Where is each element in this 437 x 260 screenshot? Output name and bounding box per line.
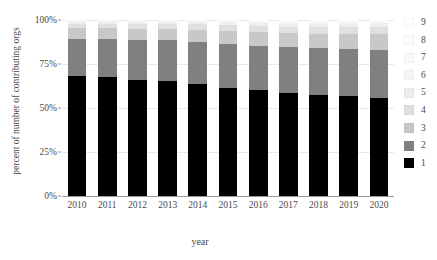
bar-2019[interactable] (339, 20, 358, 196)
x-tick-label: 2016 (249, 200, 268, 210)
stacked-bar-chart: percent of number of contributing orgs 0… (0, 0, 437, 260)
bar-segment-1 (188, 84, 207, 196)
legend-swatch-icon (404, 123, 414, 133)
bar-segment-4 (370, 27, 389, 34)
legend-label: 1 (421, 155, 426, 172)
bar-segment-3 (128, 29, 147, 40)
legend-label: 5 (421, 84, 426, 101)
legend-swatch-icon (404, 35, 414, 45)
bar-2015[interactable] (219, 20, 238, 196)
legend-item-7[interactable]: 7 (404, 49, 437, 67)
x-tick-label: 2012 (128, 200, 147, 210)
y-axis-label: percent of number of contributing orgs (11, 11, 21, 191)
bar-segment-2 (370, 50, 389, 98)
x-tick-label: 2018 (309, 200, 328, 210)
bar-segment-2 (188, 42, 207, 84)
x-tick-label: 2010 (68, 200, 87, 210)
plot-area: 0%25%50%75%100%2010201120122013201420152… (62, 20, 394, 196)
legend-label: 6 (421, 67, 426, 84)
legend-item-6[interactable]: 6 (404, 67, 437, 85)
y-tick-label: 100% (35, 15, 57, 25)
bar-segment-1 (309, 95, 328, 196)
legend-label: 2 (421, 137, 426, 154)
x-tick-label: 2020 (369, 200, 388, 210)
bar-segment-3 (370, 34, 389, 50)
bar-segment-3 (309, 34, 328, 48)
y-tick-mark (58, 108, 61, 109)
legend-item-8[interactable]: 8 (404, 32, 437, 50)
y-tick-label: 0% (44, 191, 57, 201)
legend-label: 7 (421, 49, 426, 66)
y-tick-mark (58, 196, 61, 197)
bar-2017[interactable] (279, 20, 298, 196)
bar-segment-2 (309, 48, 328, 95)
bar-segment-2 (339, 49, 358, 96)
y-tick-mark (58, 20, 61, 21)
legend-swatch-icon (404, 53, 414, 63)
legend-item-4[interactable]: 4 (404, 102, 437, 120)
bar-segment-1 (249, 90, 268, 196)
x-axis-label: year (0, 236, 400, 247)
legend-swatch-icon (404, 158, 414, 168)
bar-2020[interactable] (370, 20, 389, 196)
bar-2016[interactable] (249, 20, 268, 196)
x-tick-label: 2015 (219, 200, 238, 210)
bar-segment-3 (279, 33, 298, 47)
bar-segment-2 (128, 40, 147, 80)
bar-2013[interactable] (158, 20, 177, 196)
legend-item-2[interactable]: 2 (404, 137, 437, 155)
legend-swatch-icon (404, 141, 414, 151)
chart-title (8, 0, 408, 4)
bar-2010[interactable] (68, 20, 87, 196)
bar-segment-3 (219, 31, 238, 44)
y-tick-label: 75% (40, 59, 57, 69)
x-axis-line (62, 196, 394, 197)
legend-item-5[interactable]: 5 (404, 84, 437, 102)
legend-item-3[interactable]: 3 (404, 120, 437, 138)
bar-segment-2 (68, 39, 87, 76)
bar-segment-3 (249, 32, 268, 45)
legend-label: 8 (421, 32, 426, 49)
y-tick-label: 50% (40, 103, 57, 113)
legend-label: 4 (421, 102, 426, 119)
bar-segment-2 (158, 40, 177, 80)
bar-2018[interactable] (309, 20, 328, 196)
bar-segment-3 (158, 29, 177, 40)
bar-2014[interactable] (188, 20, 207, 196)
y-tick-mark (58, 64, 61, 65)
bar-segment-2 (98, 39, 117, 77)
legend-swatch-icon (404, 70, 414, 80)
bar-segment-1 (158, 81, 177, 196)
bar-segment-1 (98, 77, 117, 196)
legend-item-9[interactable]: 9 (404, 14, 437, 32)
bar-segment-1 (219, 88, 238, 196)
bar-segment-3 (188, 30, 207, 42)
bar-segment-1 (68, 76, 87, 196)
legend: 987654321 (404, 14, 437, 172)
y-tick-mark (58, 152, 61, 153)
plot-inner (62, 20, 394, 196)
bar-2011[interactable] (98, 20, 117, 196)
legend-item-1[interactable]: 1 (404, 155, 437, 173)
bar-segment-1 (279, 93, 298, 196)
bar-segment-3 (68, 28, 87, 39)
x-tick-label: 2017 (279, 200, 298, 210)
y-tick-label: 25% (40, 147, 57, 157)
bar-segment-4 (309, 27, 328, 34)
x-tick-label: 2019 (339, 200, 358, 210)
bar-2012[interactable] (128, 20, 147, 196)
bar-segment-3 (339, 34, 358, 49)
bar-segment-1 (339, 96, 358, 196)
x-tick-label: 2013 (158, 200, 177, 210)
bar-segment-2 (249, 46, 268, 91)
legend-swatch-icon (404, 88, 414, 98)
bar-segment-4 (339, 27, 358, 34)
x-tick-label: 2011 (98, 200, 117, 210)
bar-segment-3 (98, 28, 117, 39)
bar-segment-2 (279, 47, 298, 93)
legend-swatch-icon (404, 18, 414, 28)
x-tick-label: 2014 (188, 200, 207, 210)
bar-segment-2 (219, 44, 238, 88)
legend-label: 9 (421, 14, 426, 31)
legend-swatch-icon (404, 105, 414, 115)
